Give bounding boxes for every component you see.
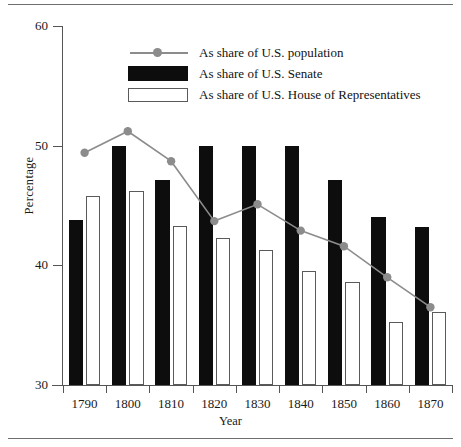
legend-item-senate: As share of U.S. Senate [128, 63, 438, 84]
legend-label-senate: As share of U.S. Senate [199, 67, 322, 81]
legend-item-population: As share of U.S. population [128, 42, 438, 63]
population-data-point [253, 200, 261, 208]
legend-white-swatch [128, 88, 188, 102]
chart-legend: As share of U.S. population As share of … [128, 42, 438, 105]
population-data-point [80, 149, 88, 157]
population-line-path [85, 131, 431, 307]
legend-black-swatch [128, 66, 188, 81]
black-swatch-key-icon [128, 66, 190, 81]
population-data-point [124, 127, 132, 135]
legend-circle-marker-icon [153, 48, 162, 57]
line-marker-key-icon [128, 45, 190, 60]
population-data-point [297, 226, 305, 234]
legend-label-population: As share of U.S. population [199, 46, 343, 60]
legend-item-house: As share of U.S. House of Representative… [128, 84, 438, 105]
population-data-point [383, 273, 391, 281]
population-data-point [210, 217, 218, 225]
population-data-point [426, 303, 434, 311]
population-data-point [340, 242, 348, 250]
white-swatch-key-icon [128, 87, 190, 102]
chart-figure: 30405060 1790180018101820183018401850186… [0, 0, 461, 447]
population-data-point [167, 157, 175, 165]
legend-label-house: As share of U.S. House of Representative… [199, 88, 421, 102]
population-line-markers [80, 127, 434, 311]
